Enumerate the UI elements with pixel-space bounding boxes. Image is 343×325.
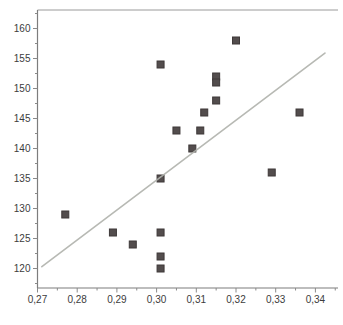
data-point-marker (109, 229, 116, 236)
y-tick-label: 125 (14, 233, 31, 244)
y-tick-label: 130 (14, 203, 31, 214)
scatter-chart-canvas: 1201251301351401451501551600,270,280,290… (0, 0, 343, 325)
data-point-marker (157, 61, 164, 68)
x-tick-label: 0,29 (107, 294, 127, 305)
data-point-marker (129, 241, 136, 248)
y-tick-label: 145 (14, 113, 31, 124)
y-tick-label: 155 (14, 53, 31, 64)
data-point-marker (233, 37, 240, 44)
data-point-marker (62, 211, 69, 218)
x-tick-label: 0,27 (28, 294, 48, 305)
y-tick-label: 135 (14, 173, 31, 184)
y-tick-label: 120 (14, 263, 31, 274)
data-point-marker (268, 169, 275, 176)
data-point-marker (157, 265, 164, 272)
x-tick-label: 0,28 (67, 294, 87, 305)
y-tick-label: 140 (14, 143, 31, 154)
scatter-plot-figure: 1201251301351401451501551600,270,280,290… (0, 0, 343, 325)
x-tick-label: 0,31 (187, 294, 207, 305)
data-point-marker (157, 253, 164, 260)
x-tick-label: 0,30 (147, 294, 167, 305)
x-tick-label: 0,33 (266, 294, 286, 305)
y-tick-label: 150 (14, 83, 31, 94)
data-point-marker (296, 109, 303, 116)
data-point-marker (157, 229, 164, 236)
data-point-marker (213, 79, 220, 86)
data-point-marker (197, 127, 204, 134)
data-point-marker (173, 127, 180, 134)
y-tick-label: 160 (14, 23, 31, 34)
x-tick-label: 0,34 (306, 294, 326, 305)
x-tick-label: 0,32 (226, 294, 246, 305)
trend-line (42, 53, 325, 267)
data-point-marker (213, 97, 220, 104)
data-point-marker (201, 109, 208, 116)
